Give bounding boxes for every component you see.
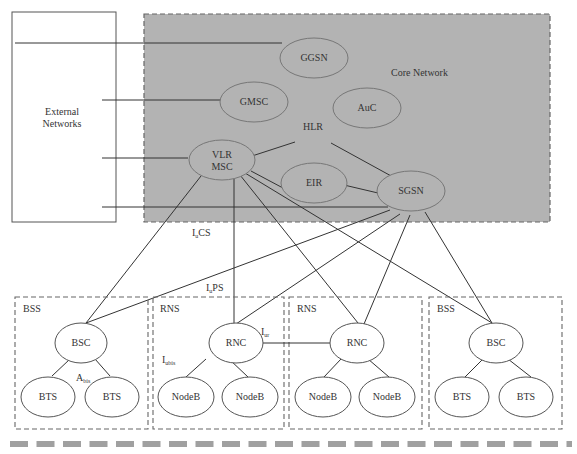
bsc-node-1: BSC [72,337,91,349]
bts-node-1a: BTS [39,391,57,403]
rnc-node-3: RNC [347,337,368,349]
subsystem-2-title: RNS [160,304,179,314]
nodeb-node-3a: NodeB [309,391,337,403]
eir-node: EIR [306,177,322,189]
nodeb-node-2a: NodeB [172,391,200,403]
external-label-line2: Networks [43,117,82,129]
core-network-title: Core Network [391,68,448,78]
bts-node-1b: BTS [103,391,121,403]
sgsn-node: SGSN [398,185,424,197]
iu-ps-label: IuPS [206,283,223,294]
bsc-node-4: BSC [487,337,506,349]
external-networks-label: External Networks [43,106,82,129]
rnc-node-2: RNC [226,337,247,349]
bts-node-4a: BTS [453,391,471,403]
iu-cs-label: IuCS [192,228,211,239]
ran-node-shapes [21,323,553,417]
nodeb-node-3b: NodeB [373,391,401,403]
iur-label: Iur [261,327,269,338]
ggsn-node: GGSN [300,52,327,64]
vlr-label: VLR [212,149,232,161]
hlr-node: HLR [303,121,323,133]
iubis-label: Iubis [162,355,175,366]
bts-node-4b: BTS [517,391,535,403]
tree-links [52,359,531,377]
msc-label: MSC [211,160,232,172]
subsystem-1-title: BSS [23,304,41,314]
vlr-msc-node: VLR MSC [211,149,232,172]
subsystem-4-title: BSS [437,304,455,314]
auc-node: AuC [358,102,377,114]
network-diagram-canvas [0,0,577,454]
external-label-line1: External [45,106,79,118]
abis-label: Abis [76,373,90,384]
nodeb-node-2b: NodeB [236,391,264,403]
subsystem-3-title: RNS [297,304,316,314]
gmsc-node: GMSC [240,96,268,108]
